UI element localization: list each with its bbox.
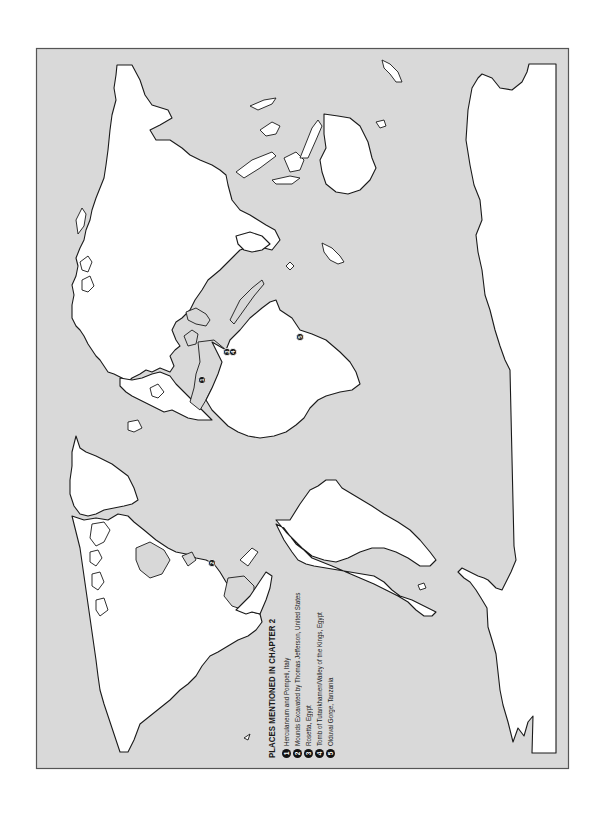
legend-item: 2 Mounds Excavated by Thomas Jefferson, … xyxy=(292,458,303,758)
legend-item: 3 Rosetta, Egypt xyxy=(303,458,314,758)
legend-title: PLACES MENTIONED IN CHAPTER 2 xyxy=(266,512,278,758)
site-marker-1: 1 xyxy=(198,376,205,383)
legend-label: Rosetta, Egypt xyxy=(303,705,314,746)
legend-item: 1 Herculaneum and Pompeii, Italy xyxy=(281,458,292,758)
map-legend: PLACES MENTIONED IN CHAPTER 2 1 Herculan… xyxy=(266,458,336,758)
legend-label: Mounds Excavated by Thomas Jefferson, Un… xyxy=(292,593,303,746)
legend-label: Tomb of Tutankhamen/Valley of the Kings,… xyxy=(314,612,325,746)
marker-number-icon: 5 xyxy=(326,749,335,758)
legend-item: 5 Olduvai Gorge, Tanzania xyxy=(325,458,336,758)
legend-item: 4 Tomb of Tutankhamen/Valley of the King… xyxy=(314,458,325,758)
marker-number-icon: 3 xyxy=(304,749,313,758)
site-marker-4: 4 xyxy=(229,348,236,355)
marker-number-icon: 4 xyxy=(315,749,324,758)
site-marker-5: 5 xyxy=(296,333,303,340)
legend-list: 1 Herculaneum and Pompeii, Italy 2 Mound… xyxy=(281,458,336,758)
site-marker-2: 2 xyxy=(208,559,215,566)
marker-number-icon: 2 xyxy=(293,749,302,758)
legend-label: Herculaneum and Pompeii, Italy xyxy=(281,658,292,746)
legend-label: Olduvai Gorge, Tanzania xyxy=(325,678,336,746)
marker-number-icon: 1 xyxy=(282,749,291,758)
